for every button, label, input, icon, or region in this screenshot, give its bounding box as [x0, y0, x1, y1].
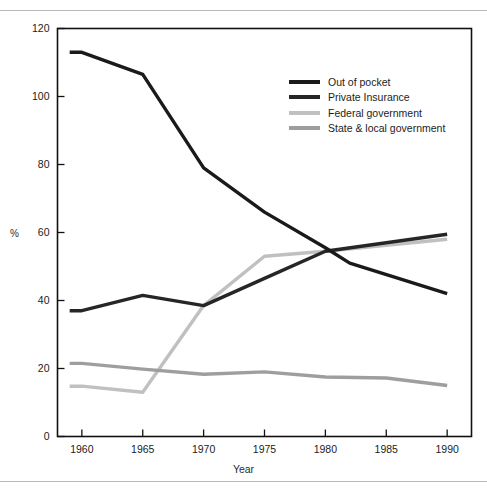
y-tick-label: 0 [10, 430, 50, 442]
x-axis-title: Year [0, 463, 487, 475]
legend-item-label: State & local government [328, 123, 445, 134]
y-tick-label: 40 [10, 294, 50, 306]
x-tick-label: 1985 [356, 443, 416, 455]
legend-item: Out of pocket [289, 74, 445, 90]
x-tick-label: 1975 [235, 443, 295, 455]
y-tick-label: 80 [10, 158, 50, 170]
legend-swatch-line-icon [289, 80, 320, 84]
x-tick-label: 1980 [295, 443, 355, 455]
x-tick-label: 1970 [174, 443, 234, 455]
chart-figure: 020406080100120 196019651970197519801985… [0, 0, 487, 492]
y-axis-ticks [58, 29, 65, 437]
legend-item-label: Out of pocket [328, 77, 390, 88]
x-tick-label: 1965 [113, 443, 173, 455]
legend-item: Private Insurance [289, 90, 445, 106]
series-line-state-local-government [70, 363, 447, 385]
legend-item-label: Federal government [328, 108, 422, 119]
series-line-federal-government [70, 239, 447, 392]
chart-legend: Out of pocketPrivate InsuranceFederal go… [289, 74, 445, 136]
legend-item: State & local government [289, 121, 445, 137]
y-tick-label: 100 [10, 90, 50, 102]
legend-item-label: Private Insurance [328, 92, 410, 103]
x-axis-ticks [82, 430, 447, 437]
legend-swatch-line-icon [289, 126, 320, 130]
x-tick-label: 1960 [52, 443, 112, 455]
y-axis-title: % [10, 228, 19, 239]
legend-item: Federal government [289, 105, 445, 121]
y-tick-label: 20 [10, 362, 50, 374]
legend-swatch-line-icon [289, 111, 320, 115]
y-tick-label: 120 [10, 22, 50, 34]
legend-swatch-line-icon [289, 95, 320, 99]
x-tick-label: 1990 [417, 443, 477, 455]
